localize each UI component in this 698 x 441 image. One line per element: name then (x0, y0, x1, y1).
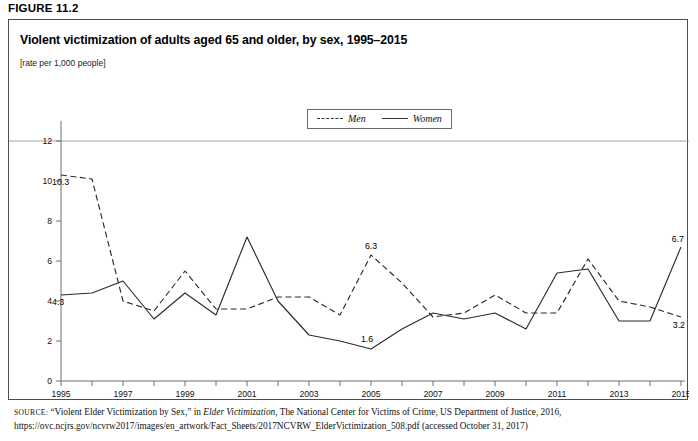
x-axis-tick-2001: 2001 (237, 389, 256, 399)
figure-container: Violent victimization of adults aged 65 … (8, 19, 688, 400)
x-axis-tick-labels: 1995199719992001200320052007200920112013… (51, 389, 689, 399)
figure-label: FIGURE 11.2 (8, 2, 79, 14)
source-text-1: “Violent Elder Victimization by Sex,” in (48, 407, 203, 417)
plot-area: 024681012 199519971999200120032005200720… (9, 20, 689, 401)
source-text-2: , The National Center for Victims of Cri… (275, 407, 561, 417)
y-axis-tick-12: 12 (42, 136, 52, 146)
data-label-women-2015: 6.7 (672, 234, 684, 244)
chart-data-labels: 10.36.33.24.31.66.7 (52, 177, 685, 344)
y-axis-tick-8: 8 (47, 216, 52, 226)
data-label-men-2005: 6.3 (365, 241, 377, 251)
x-axis-tick-1997: 1997 (113, 389, 132, 399)
x-axis-tick-2013: 2013 (609, 389, 628, 399)
source-url: https://ovc.ncjrs.gov/ncvrw2017/images/e… (14, 420, 686, 433)
series-line-women (61, 237, 681, 349)
x-axis-tick-1995: 1995 (51, 389, 70, 399)
x-axis-tick-2011: 2011 (548, 389, 567, 399)
x-axis-tick-1999: 1999 (175, 389, 194, 399)
x-axis-tick-2009: 2009 (485, 389, 504, 399)
data-label-women-2005: 1.6 (361, 334, 373, 344)
source-note: SOURCE: “Violent Elder Victimization by … (14, 406, 686, 432)
x-axis-tick-2003: 2003 (299, 389, 318, 399)
source-italic-title: Elder Victimization (203, 407, 275, 417)
line-chart-svg: 024681012 199519971999200120032005200720… (9, 20, 689, 401)
y-axis-tick-10: 10 (42, 176, 52, 186)
y-axis-tick-labels: 024681012 (42, 136, 52, 386)
y-axis-tick-6: 6 (47, 256, 52, 266)
data-label-men-1995: 10.3 (52, 177, 69, 187)
chart-series-lines (61, 175, 681, 349)
x-axis-tick-2005: 2005 (361, 389, 380, 399)
y-axis-tick-2: 2 (47, 336, 52, 346)
x-axis-tick-2007: 2007 (423, 389, 442, 399)
data-label-women-1995: 4.3 (52, 297, 64, 307)
source-keyword: SOURCE: (14, 408, 48, 417)
x-axis-tick-2015: 2015 (671, 389, 689, 399)
y-axis-tick-0: 0 (47, 376, 52, 386)
data-label-men-2015: 3.2 (673, 320, 685, 330)
